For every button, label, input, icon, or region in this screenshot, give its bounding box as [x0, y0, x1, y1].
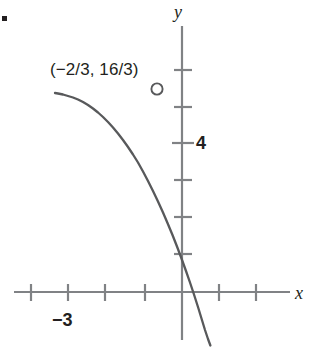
coordinate-plane	[0, 0, 310, 363]
vertex-annotation-label: (−2/3, 16/3)	[50, 61, 139, 78]
x-axis-tick-label-neg3: −3	[52, 311, 73, 329]
x-axis-label: x	[295, 284, 303, 302]
y-axis-tick-label-4: 4	[196, 134, 206, 152]
y-axis-label: y	[174, 3, 182, 21]
vertex-open-circle-marker	[151, 83, 162, 94]
parabola-curve	[55, 93, 210, 346]
parabola-figure: (−2/3, 16/3) 4 −3 x y	[0, 0, 310, 363]
